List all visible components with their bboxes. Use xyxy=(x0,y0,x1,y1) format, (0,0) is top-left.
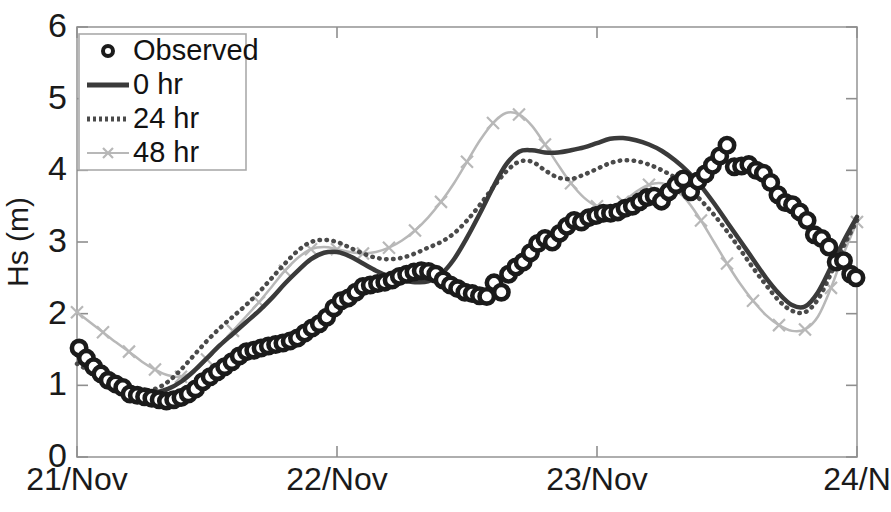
marker-observed xyxy=(494,285,508,299)
legend-label: 0 hr xyxy=(133,68,183,100)
marker-observed xyxy=(849,271,863,285)
legend: Observed0 hr24 hr48 hr xyxy=(79,34,259,170)
y-tick-label: 2 xyxy=(48,293,67,331)
y-axis-title: Hs (m) xyxy=(1,197,34,287)
marker-observed xyxy=(720,138,734,152)
legend-label: Observed xyxy=(133,34,259,66)
marker-observed xyxy=(800,213,814,227)
marker-observed xyxy=(822,240,836,254)
legend-label: 24 hr xyxy=(133,102,199,134)
legend-label: 48 hr xyxy=(133,136,199,168)
x-tick-label: 22/Nov xyxy=(286,461,387,497)
y-tick-label: 6 xyxy=(48,6,67,44)
y-tick-label: 4 xyxy=(48,149,67,187)
x-tick-label: 21/Nov xyxy=(26,461,127,497)
x-tick-label: 24/N xyxy=(823,461,891,497)
legend-observed-marker-icon xyxy=(103,46,113,56)
y-tick-label: 5 xyxy=(48,78,67,116)
chart-figure: 0123456 21/Nov22/Nov23/Nov24/N Hs (m) Ob… xyxy=(0,0,891,512)
x-tick-label: 23/Nov xyxy=(546,461,647,497)
y-tick-label: 3 xyxy=(48,221,67,259)
y-tick-label: 1 xyxy=(48,364,67,402)
chart-svg: 0123456 21/Nov22/Nov23/Nov24/N Hs (m) Ob… xyxy=(0,0,891,512)
